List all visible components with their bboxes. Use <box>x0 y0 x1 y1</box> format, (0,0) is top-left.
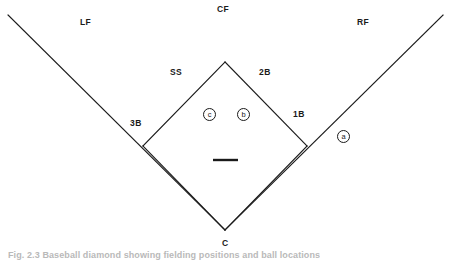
position-label-left-field: LF <box>80 18 91 27</box>
baseball-diamond-figure: LF CF RF SS 2B 3B 1B C a b c Fig. 2.3 Ba… <box>0 0 452 261</box>
position-label-third-base: 3B <box>130 119 142 128</box>
ball-marker-c: c <box>203 108 216 121</box>
foul-line-right <box>225 15 443 230</box>
infield-line-home-to-third <box>143 146 225 230</box>
field-diagram-svg <box>0 0 452 261</box>
foul-line-left <box>8 15 225 230</box>
position-label-first-base: 1B <box>293 110 305 119</box>
infield-line-third-to-second <box>143 62 225 146</box>
position-label-catcher: C <box>222 239 229 248</box>
position-label-right-field: RF <box>357 18 369 27</box>
ball-marker-a: a <box>337 130 350 143</box>
figure-caption: Fig. 2.3 Baseball diamond showing fieldi… <box>8 251 320 261</box>
infield-line-first-to-home <box>225 146 307 230</box>
position-label-center-field: CF <box>217 5 229 14</box>
position-label-shortstop: SS <box>170 68 182 77</box>
ball-marker-b: b <box>237 108 250 121</box>
position-label-second-base: 2B <box>259 68 271 77</box>
